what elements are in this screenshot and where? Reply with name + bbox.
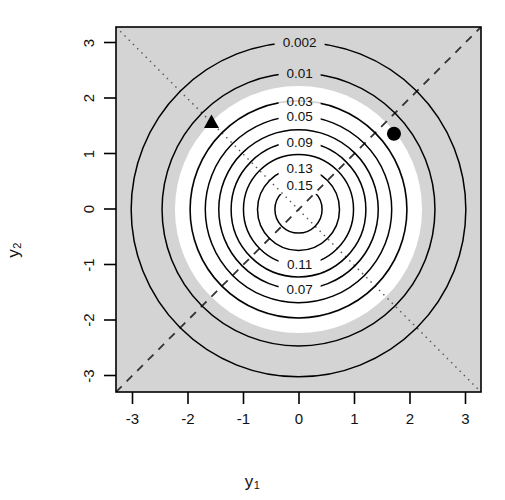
x-tick-label: 3 xyxy=(461,410,469,427)
x-axis-ticks xyxy=(133,392,466,404)
y-axis-title-subscript: 2 xyxy=(11,242,23,249)
contour-label: 0.002 xyxy=(283,35,317,50)
circle-point-marker xyxy=(387,127,401,141)
x-axis-title: y1 xyxy=(0,472,505,492)
contour-label: 0.01 xyxy=(286,66,312,81)
contour-label-group: 0.002 0.01 0.03 0.05 0.09 0.13 0.15 0.11… xyxy=(283,35,317,297)
x-tick-label: 0 xyxy=(295,410,303,427)
x-tick-label: -3 xyxy=(126,410,139,427)
y-tick-label: 2 xyxy=(80,94,97,102)
contour-label: 0.11 xyxy=(287,257,312,272)
y-tick-label: -2 xyxy=(80,313,97,326)
y-axis-title-text: y xyxy=(4,249,23,258)
contour-label: 0.09 xyxy=(286,135,312,150)
y-tick-label: 0 xyxy=(80,205,97,213)
x-tick-label: 1 xyxy=(350,410,358,427)
x-axis-title-subscript: 1 xyxy=(254,479,261,491)
contour-label: 0.13 xyxy=(286,161,312,176)
contour-label: 0.15 xyxy=(286,178,312,193)
plot-panel: 0.002 0.01 0.03 0.05 0.09 0.13 0.15 0.11… xyxy=(116,27,481,392)
y-axis-title: y2 xyxy=(4,242,24,258)
y-tick-label: 1 xyxy=(80,149,97,157)
contour-label: 0.05 xyxy=(286,109,312,124)
contour-plot-figure: 0.002 0.01 0.03 0.05 0.09 0.13 0.15 0.11… xyxy=(0,0,505,500)
x-axis-title-text: y xyxy=(245,472,254,491)
y-tick-label: -3 xyxy=(80,369,97,382)
y-tick-label: 3 xyxy=(80,38,97,46)
x-tick-label: -2 xyxy=(181,410,194,427)
contour-label: 0.03 xyxy=(286,94,312,109)
y-axis-ticks xyxy=(104,43,116,376)
contour-label: 0.07 xyxy=(286,282,312,297)
x-tick-label: -1 xyxy=(237,410,250,427)
plot-canvas: 0.002 0.01 0.03 0.05 0.09 0.13 0.15 0.11… xyxy=(0,0,505,500)
x-tick-label: 2 xyxy=(406,410,414,427)
y-tick-label: -1 xyxy=(80,258,97,271)
